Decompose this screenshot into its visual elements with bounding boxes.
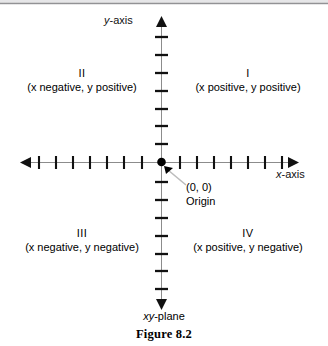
quadrant-4-label: IV (x positive, y negative) — [168, 226, 328, 254]
quadrant-1-x-sign: positive, — [205, 81, 251, 93]
quadrant-2-label: II (x negative, y positive) — [2, 66, 162, 94]
origin-coordinates: (0, 0) — [186, 180, 215, 194]
xy-plane-suffix: -plane — [154, 310, 185, 322]
origin-word: Origin — [186, 194, 215, 208]
quadrant-2-description: (x negative, y positive) — [2, 80, 162, 94]
y-axis-label-suffix: -axis — [110, 14, 133, 26]
y-axis-up-arrowhead — [156, 16, 167, 27]
xy-plane-label: xy-plane — [0, 310, 328, 322]
quadrant-1-description: (x positive, y positive) — [168, 80, 328, 94]
y-axis-label: y-axis — [104, 14, 133, 27]
quadrant-1-numeral: I — [168, 66, 328, 80]
figure-caption: Figure 8.2 — [0, 327, 328, 342]
quadrant-3-x-sign: negative, — [34, 241, 85, 253]
quadrant-3-y-sign: negative) — [91, 241, 139, 253]
xy-plane-variables: xy — [143, 310, 154, 322]
x-axis-label: x-axis — [276, 168, 305, 181]
x-axis-label-suffix: -axis — [282, 168, 305, 180]
quadrant-2-x-sign: negative, — [36, 81, 87, 93]
quadrant-1-y-sign: positive) — [257, 81, 301, 93]
quadrant-3-label: III (x negative, y negative) — [2, 226, 162, 254]
quadrant-4-x-sign: positive, — [202, 241, 248, 253]
quadrant-3-numeral: III — [2, 226, 162, 240]
quadrant-2-numeral: II — [2, 66, 162, 80]
origin-leader-line — [168, 170, 186, 185]
origin-callout: (0, 0) Origin — [186, 180, 215, 208]
quadrant-4-description: (x positive, y negative) — [168, 240, 328, 254]
quadrant-1-label: I (x positive, y positive) — [168, 66, 328, 94]
y-axis-down-arrowhead — [156, 299, 167, 310]
figure-container: y-axis x-axis II (x negative, y positive… — [0, 0, 328, 346]
origin-point — [157, 158, 166, 167]
quadrant-2-y-sign: positive) — [93, 81, 137, 93]
quadrant-4-numeral: IV — [168, 226, 328, 240]
quadrant-3-description: (x negative, y negative) — [2, 240, 162, 254]
x-axis-left-arrowhead — [20, 157, 31, 168]
x-axis-right-arrowhead — [288, 157, 299, 168]
quadrant-4-y-sign: negative) — [254, 241, 302, 253]
